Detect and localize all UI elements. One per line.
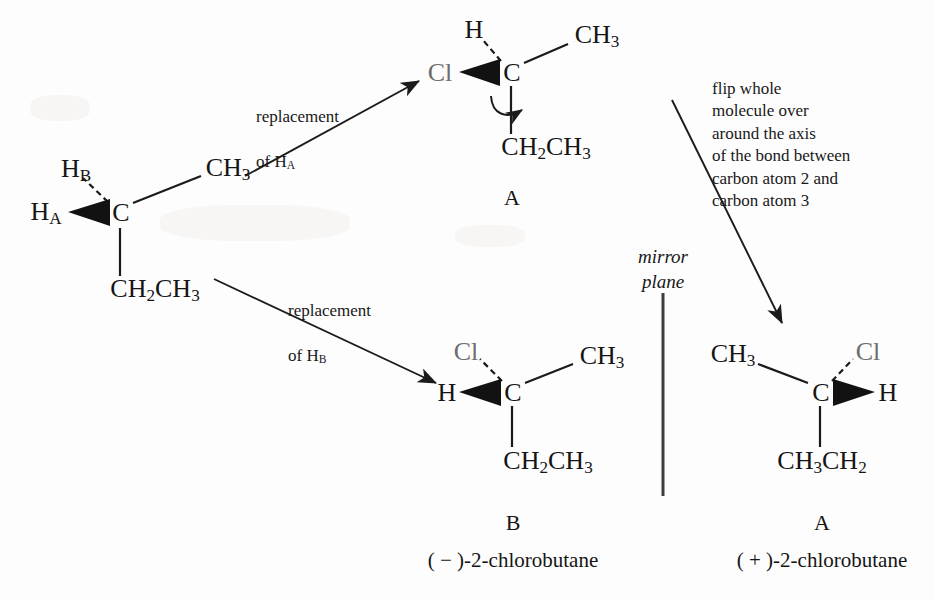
bond-plain-methyl (133, 176, 201, 203)
atom-label-methyl: CH3 (711, 341, 756, 369)
atom-label-methyl: CH3 (580, 343, 625, 371)
annotation-line-2: of HB (288, 345, 371, 368)
bond-dashed-chlorine (480, 359, 502, 381)
rotation-arrow (491, 96, 522, 115)
atom-label-center-carbon: C (504, 380, 521, 406)
structure-tag-top-a: A (504, 185, 520, 211)
atom-label-ethyl: CH2CH3 (110, 276, 199, 304)
atom-label-hydrogen: H (465, 17, 484, 43)
atom-label-chlorine: Cl (428, 60, 453, 86)
scan-artifact (160, 205, 350, 241)
caption-plus-chlorobutane: ( + )-2-chlorobutane (737, 548, 907, 573)
annotation-replacement-of-ha: replacement of HA (256, 84, 339, 196)
annotation-line-1: replacement (256, 106, 339, 128)
annotation-line-1: replacement (288, 300, 371, 322)
bond-wedge-chlorine (459, 59, 500, 86)
atom-label-center-carbon: C (112, 200, 129, 226)
scan-artifact (455, 225, 525, 247)
figure-canvas: HB HA C CH3 CH2CH3 H Cl C CH3 CH2CH3 A C… (0, 0, 934, 600)
bond-plain-methyl (525, 364, 573, 383)
bond-wedge-hydrogen (459, 379, 501, 406)
annotation-replacement-of-hb: replacement of HB (288, 278, 371, 390)
bond-dashed-hydrogen (482, 39, 501, 61)
atom-label-chlorine: Cl (454, 339, 479, 365)
structure-tag-bottom-a: A (814, 510, 830, 536)
atom-label-center-carbon: C (503, 60, 520, 86)
annotation-mirror-plane: mirror plane (638, 244, 688, 294)
atom-label-ethyl: CH2CH3 (501, 134, 590, 162)
bond-wedge-ha (68, 199, 110, 226)
atom-label-center-carbon: C (812, 380, 829, 406)
atom-label-ethyl: CH3CH2 (777, 448, 866, 476)
bond-plain-methyl (758, 364, 808, 383)
scan-artifact (30, 95, 90, 121)
mirror-plane-line-1: mirror (638, 244, 688, 269)
mirror-plane-line-2: plane (638, 269, 688, 294)
atom-label-methyl: CH3 (206, 155, 251, 183)
atom-label-chlorine: Cl (856, 339, 881, 365)
atom-label-hydrogen: H (438, 380, 457, 406)
atom-label-ethyl: CH2CH3 (503, 448, 592, 476)
bond-dashed-chlorine (832, 359, 853, 381)
caption-minus-chlorobutane: ( − )-2-chlorobutane (428, 548, 598, 573)
atom-label-hydrogen: H (879, 380, 898, 406)
annotation-flip-molecule-note: flip whole molecule over around the axis… (712, 78, 850, 213)
bond-wedge-hydrogen (833, 379, 875, 406)
atom-label-ha: HA (30, 199, 61, 227)
atom-label-methyl: CH3 (575, 22, 620, 50)
bond-plain-methyl (524, 44, 568, 63)
structure-tag-bottom-b: B (506, 510, 521, 536)
annotation-line-2: of HA (256, 151, 339, 174)
atom-label-hb: HB (61, 156, 91, 184)
